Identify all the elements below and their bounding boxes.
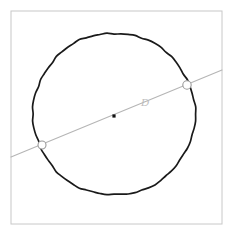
circle-center-point — [112, 114, 115, 117]
intersection-point-right — [183, 81, 191, 89]
label-D: D — [140, 96, 149, 108]
figure-border — [11, 11, 222, 224]
geometry-figure-container: D — [0, 0, 238, 236]
intersection-point-left — [38, 141, 46, 149]
geometry-figure-svg: D — [0, 0, 238, 236]
